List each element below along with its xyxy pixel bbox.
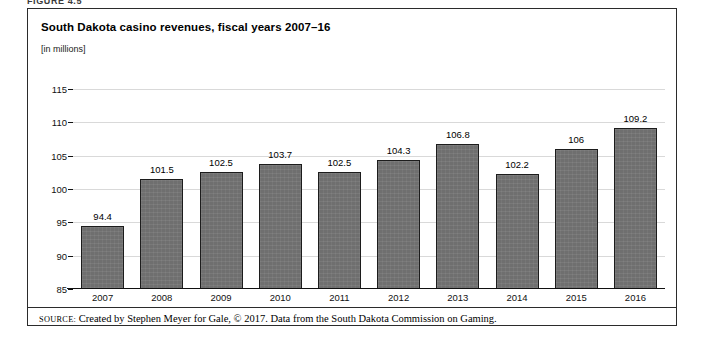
bar-slot: 109.2 <box>606 89 665 289</box>
page-title: South Dakota casino revenues, fiscal yea… <box>41 21 330 33</box>
figure-number-label: FIGURE 4.5 <box>27 0 82 4</box>
bar-slot: 102.2 <box>487 89 546 289</box>
source-note: SOURCE: Created by Stephen Meyer for Gal… <box>39 313 666 324</box>
bar-slot: 106 <box>547 89 606 289</box>
bar-value-label: 94.4 <box>93 211 112 222</box>
x-axis-line <box>67 288 665 289</box>
bar-value-label: 106 <box>568 134 584 145</box>
source-label: SOURCE: <box>39 315 76 324</box>
bar[interactable] <box>555 149 598 289</box>
bar[interactable] <box>140 179 183 289</box>
y-axis-tick-label: 100 <box>51 184 67 195</box>
bar[interactable] <box>81 226 124 289</box>
figure-container: South Dakota casino revenues, fiscal yea… <box>27 8 677 326</box>
y-axis-tick-label: 110 <box>52 117 67 128</box>
y-axis-tick-label: 105 <box>51 150 67 161</box>
bar-series: 94.4101.5102.5103.7102.5104.3106.8102.21… <box>73 89 665 289</box>
bar-value-label: 109.2 <box>624 113 648 124</box>
bar-slot: 101.5 <box>132 89 191 289</box>
bar-value-label: 106.8 <box>446 129 470 140</box>
bar-value-label: 101.5 <box>150 164 174 175</box>
bar[interactable] <box>318 172 361 289</box>
bar[interactable] <box>259 164 302 289</box>
bar-value-label: 104.3 <box>387 145 411 156</box>
bar[interactable] <box>377 160 420 289</box>
bar-value-label: 102.5 <box>209 157 233 168</box>
x-axis-tick-label: 2007 <box>73 292 132 308</box>
bar-slot: 94.4 <box>73 89 132 289</box>
bar-slot: 103.7 <box>251 89 310 289</box>
x-axis-tick-label: 2014 <box>487 292 546 308</box>
x-axis-tick-label: 2011 <box>310 292 369 308</box>
x-axis-tick-label: 2009 <box>191 292 250 308</box>
bar-value-label: 103.7 <box>268 149 292 160</box>
x-axis-tick-label: 2010 <box>251 292 310 308</box>
x-axis-tick-label: 2008 <box>132 292 191 308</box>
bar-slot: 102.5 <box>310 89 369 289</box>
y-axis-tick-label: 115 <box>52 84 67 95</box>
chart-units-subtitle: [in millions] <box>41 44 86 54</box>
bar-value-label: 102.5 <box>328 157 352 168</box>
y-axis-tick-label: 90 <box>56 250 67 261</box>
bar-slot: 102.5 <box>191 89 250 289</box>
bar[interactable] <box>200 172 243 289</box>
bar-value-label: 102.2 <box>505 159 529 170</box>
source-separator <box>28 307 676 308</box>
bar[interactable] <box>436 144 479 289</box>
chart-plot-area: 859095100105110115 94.4101.5102.5103.710… <box>73 89 665 289</box>
bar[interactable] <box>614 128 657 289</box>
y-axis-tick-label: 95 <box>56 217 67 228</box>
x-axis-tick-label: 2013 <box>428 292 487 308</box>
x-axis-tick-label: 2015 <box>547 292 606 308</box>
bar[interactable] <box>496 174 539 289</box>
y-axis-tick-label: 85 <box>56 284 67 295</box>
bar-slot: 106.8 <box>428 89 487 289</box>
x-axis-tick-labels: 2007200820092010201120122013201420152016 <box>73 292 665 308</box>
x-axis-tick-label: 2016 <box>606 292 665 308</box>
y-axis-tick-mark <box>68 289 73 290</box>
x-axis-tick-label: 2012 <box>369 292 428 308</box>
source-text: Created by Stephen Meyer for Gale, © 201… <box>79 313 497 324</box>
bar-slot: 104.3 <box>369 89 428 289</box>
